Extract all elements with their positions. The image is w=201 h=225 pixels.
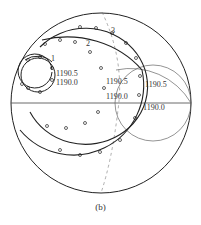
freq-label-c2-high: 1190.5 bbox=[106, 77, 128, 86]
dashed-arc bbox=[101, 12, 120, 193]
freq-label-c1-high: 1190.5 bbox=[56, 69, 78, 78]
freq-label-c3-high: 1190.5 bbox=[145, 80, 167, 89]
freq-label-c3-low: 1190.0 bbox=[143, 103, 165, 112]
curve-label-3: 3 bbox=[111, 26, 115, 35]
smith-chart-diagram: 1 2 3 1190.5 1190.0 1190.5 1190.0 1190.5… bbox=[0, 0, 201, 225]
curve-label-2: 2 bbox=[86, 39, 90, 48]
figure-caption: (b) bbox=[0, 202, 201, 212]
data-markers bbox=[21, 26, 142, 157]
curve-label-1: 1 bbox=[51, 54, 55, 63]
freq-label-c2-low: 1190.0 bbox=[106, 92, 128, 101]
freq-label-c1-low: 1190.0 bbox=[56, 78, 78, 87]
curve-1-loop bbox=[21, 58, 55, 92]
